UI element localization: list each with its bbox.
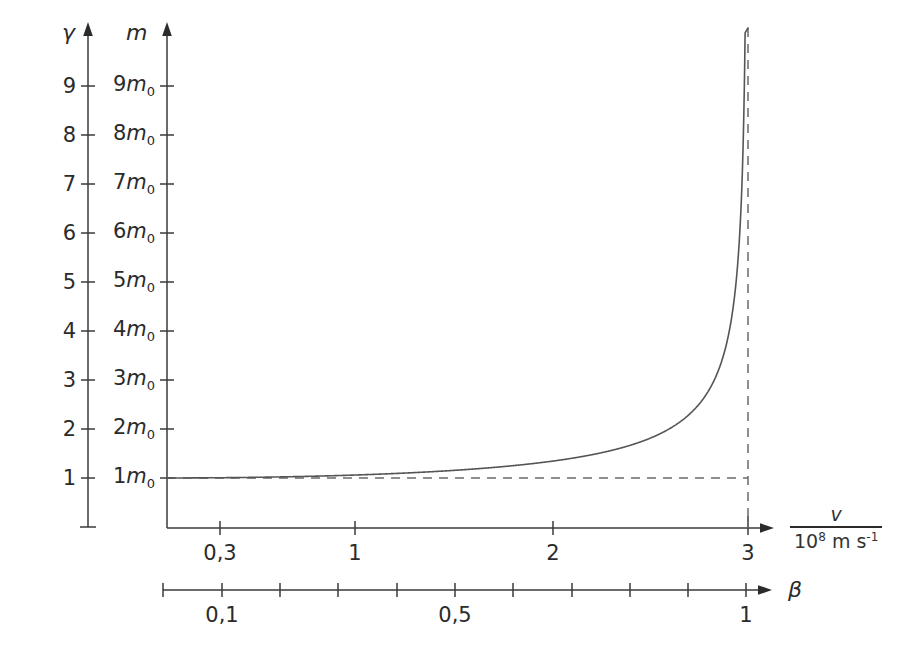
mass-tick-label-8: 8m0	[113, 123, 155, 147]
gamma-axis-arrow-icon	[83, 22, 93, 36]
gamma-tick-label-1: 1	[63, 468, 76, 489]
mass-tick-sym-6: m	[126, 219, 146, 243]
beta-axis-group	[163, 583, 772, 597]
velocity-tick-label-1: 1	[348, 543, 361, 564]
velocity-axis-label: v 108 m s-1	[790, 503, 882, 552]
mass-tick-sym-8: m	[126, 121, 146, 145]
gamma-tick-label-8: 8	[63, 125, 76, 146]
gamma-tick-label-7: 7	[63, 174, 76, 195]
gamma-axis-group	[80, 22, 96, 527]
mass-tick-label-4: 4m0	[113, 319, 155, 343]
mass-tick-sym-1: m	[126, 464, 146, 488]
velocity-tick-label-0-3: 0,3	[203, 543, 236, 564]
beta-axis-symbol: β	[788, 579, 802, 601]
mass-axis-arrow-icon	[162, 22, 172, 36]
mass-tick-coef-3: 3	[113, 366, 126, 390]
mass-tick-sym-7: m	[126, 170, 146, 194]
mass-tick-label-1: 1m0	[113, 466, 155, 490]
mass-tick-sub-7: 0	[147, 182, 155, 197]
mass-axis-symbol: m	[126, 22, 147, 44]
mass-tick-coef-7: 7	[113, 170, 126, 194]
mass-tick-coef-1: 1	[113, 464, 126, 488]
velocity-axis-label-denominator: 108 m s-1	[790, 528, 882, 552]
mass-tick-sym-9: m	[126, 72, 146, 96]
gamma-tick-label-6: 6	[63, 223, 76, 244]
mass-tick-sub-8: 0	[147, 133, 155, 148]
velocity-axis-label-numerator: v	[790, 503, 882, 526]
beta-tick-label-0-1: 0,1	[205, 605, 238, 626]
mass-tick-coef-2: 2	[113, 415, 126, 439]
denominator-exponent: 8	[818, 530, 826, 544]
gamma-tick-label-2: 2	[63, 419, 76, 440]
beta-tick-label-0-5: 0,5	[438, 605, 471, 626]
mass-tick-sub-9: 0	[147, 84, 155, 99]
gamma-tick-label-3: 3	[63, 370, 76, 391]
mass-tick-label-5: 5m0	[113, 270, 155, 294]
denominator-unit: m s	[832, 530, 866, 552]
mass-tick-sym-2: m	[126, 415, 146, 439]
mass-tick-coef-6: 6	[113, 219, 126, 243]
mass-tick-sub-1: 0	[147, 476, 155, 491]
mass-tick-sub-5: 0	[147, 280, 155, 295]
mass-tick-sub-6: 0	[147, 231, 155, 246]
mass-axis-group	[160, 22, 174, 528]
beta-axis-arrow-icon	[758, 585, 772, 595]
mass-tick-coef-8: 8	[113, 121, 126, 145]
mass-tick-coef-9: 9	[113, 72, 126, 96]
beta-tick-label-1: 1	[739, 605, 752, 626]
velocity-axis-group	[167, 516, 774, 535]
mass-tick-label-2: 2m0	[113, 417, 155, 441]
mass-tick-sym-4: m	[126, 317, 146, 341]
relativistic-mass-chart: γ 1 2 3 4 5 6 7 8 9 m 1m0 2m0 3m0 4m0 5m…	[0, 0, 905, 650]
gamma-tick-label-4: 4	[63, 321, 76, 342]
mass-tick-sym-5: m	[126, 268, 146, 292]
mass-tick-coef-5: 5	[113, 268, 126, 292]
denominator-unit-exponent: -1	[866, 530, 878, 544]
velocity-tick-label-2: 2	[546, 543, 559, 564]
gamma-axis-symbol: γ	[62, 22, 75, 44]
mass-tick-label-7: 7m0	[113, 172, 155, 196]
relativistic-mass-curve	[167, 28, 748, 478]
mass-tick-coef-4: 4	[113, 317, 126, 341]
mass-tick-sub-4: 0	[147, 329, 155, 344]
mass-tick-label-9: 9m0	[113, 74, 155, 98]
mass-tick-label-3: 3m0	[113, 368, 155, 392]
velocity-axis-arrow-icon	[760, 523, 774, 533]
mass-tick-sub-3: 0	[147, 378, 155, 393]
velocity-tick-label-3: 3	[741, 543, 754, 564]
mass-tick-sym-3: m	[126, 366, 146, 390]
gamma-tick-label-9: 9	[63, 76, 76, 97]
gamma-tick-label-5: 5	[63, 272, 76, 293]
mass-tick-sub-2: 0	[147, 427, 155, 442]
mass-tick-label-6: 6m0	[113, 221, 155, 245]
denominator-base: 10	[794, 530, 818, 552]
